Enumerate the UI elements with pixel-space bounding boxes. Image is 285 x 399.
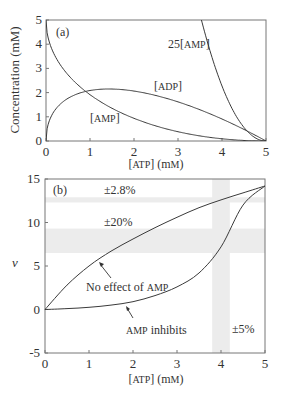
- curve-label-no-effect: No effect of AMP: [86, 280, 169, 294]
- panel-a-xlabel: [ATP] (mM): [128, 157, 183, 171]
- y-tick-label: 0: [36, 133, 43, 148]
- band-label-20: ±20%: [104, 215, 133, 229]
- panel-a-ticks: 012345012345: [36, 12, 270, 159]
- y-tick-label: 10: [27, 215, 40, 230]
- panel-b-ylabel: v: [12, 255, 18, 270]
- y-tick-label: 5: [36, 12, 43, 27]
- arrowhead-inhibits-icon: [126, 306, 130, 311]
- x-tick-label: 4: [219, 144, 226, 159]
- x-tick-label: 4: [218, 356, 225, 371]
- x-tick-label: 0: [42, 356, 49, 371]
- y-tick-label: 5: [34, 258, 41, 273]
- band-label-2-8: ±2.8%: [104, 183, 136, 197]
- y-tick-label: 0: [34, 302, 41, 317]
- y-tick-label: 4: [36, 36, 43, 51]
- panel-b: 012345-5051015 (b) ±2.8% ±20% ±5% No eff…: [12, 171, 268, 386]
- x-tick-label: 3: [174, 356, 181, 371]
- panel-b-xlabel: [ATP] (mM): [128, 372, 183, 386]
- arrowhead-no-effect-icon: [99, 262, 104, 267]
- curve-label-inhibits: AMP inhibits: [126, 323, 187, 337]
- shaded-band: [45, 229, 265, 253]
- y-tick-label: 15: [27, 171, 40, 186]
- panel-b-label: (b): [53, 183, 67, 197]
- curve-label-25amp: 25[AMP]: [168, 37, 210, 51]
- x-tick-label: 2: [130, 356, 137, 371]
- curve-adp: [46, 89, 266, 141]
- x-tick-label: 5: [262, 356, 269, 371]
- x-tick-label: 5: [263, 144, 270, 159]
- figure: 012345012345 (a) 25[AMP] [ADP] [AMP] Con…: [0, 0, 285, 399]
- shaded-band: [45, 197, 265, 202]
- shaded-band: [212, 179, 230, 353]
- y-tick-label: -5: [29, 345, 40, 360]
- panel-a-label: (a): [56, 25, 69, 39]
- panel-a-ylabel: Concentration (mM): [7, 26, 22, 133]
- curve-25amp: [199, 10, 266, 141]
- y-tick-label: 1: [36, 109, 43, 124]
- band-label-5: ±5%: [232, 322, 255, 336]
- panel-a-curves: [46, 10, 266, 141]
- x-tick-label: 1: [86, 356, 93, 371]
- x-tick-label: 1: [87, 144, 94, 159]
- panel-a: 012345012345 (a) 25[AMP] [ADP] [AMP] Con…: [7, 10, 269, 171]
- x-tick-label: 0: [43, 144, 50, 159]
- y-tick-label: 3: [36, 60, 43, 75]
- curve-label-amp: [AMP]: [90, 111, 120, 125]
- curve-label-adp: [ADP]: [154, 79, 182, 93]
- y-tick-label: 2: [36, 85, 43, 100]
